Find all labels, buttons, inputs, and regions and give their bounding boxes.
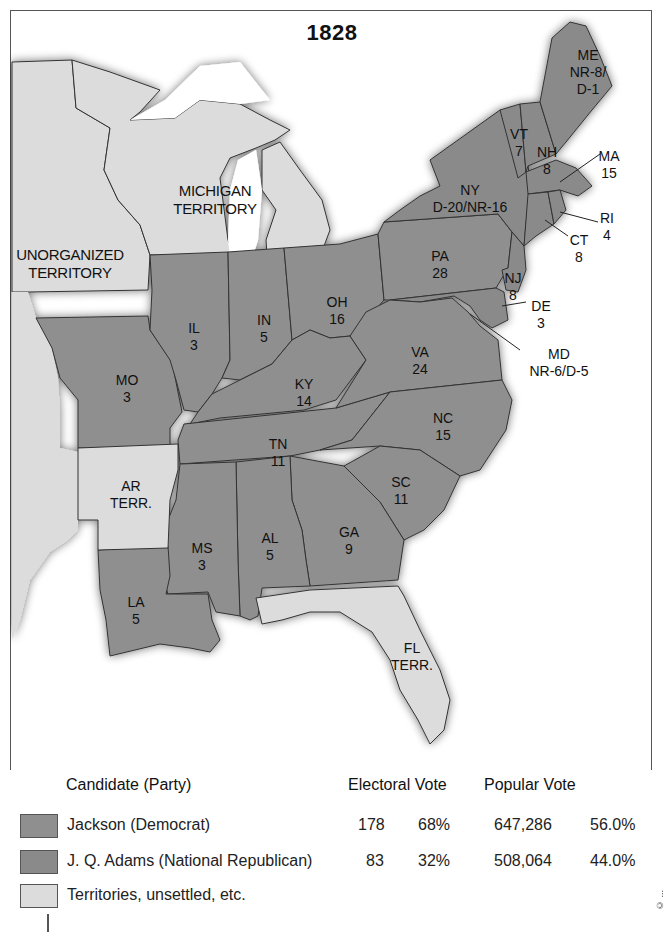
side-credit: © ... <box>655 790 664 910</box>
label-state-tn: TN11 <box>269 436 288 470</box>
corner-tick-line <box>47 914 49 932</box>
label-state-nh: NH8 <box>537 144 557 178</box>
label-state-nc: NC15 <box>433 410 453 444</box>
map-graphic <box>10 10 652 770</box>
label-state-ma: MA15 <box>599 148 620 182</box>
legend-header-electoral: Electoral Vote <box>348 776 447 794</box>
label-ar-territory: ARTERR. <box>110 478 152 512</box>
label-state-in: IN5 <box>257 312 271 346</box>
label-state-de: DE3 <box>531 298 550 332</box>
legend-label: J. Q. Adams (National Republican) <box>67 852 312 870</box>
label-state-mo: MO3 <box>116 372 139 406</box>
legend-row-territories: Territories, unsettled, etc. <box>20 882 650 908</box>
label-fl-territory: FLTERR. <box>391 640 433 674</box>
popular-pct: 56.0% <box>590 816 635 834</box>
legend-header-candidate: Candidate (Party) <box>66 776 191 794</box>
electoral-votes: 178 <box>358 816 385 834</box>
popular-votes: 647,286 <box>494 816 552 834</box>
label-state-me: MENR-8/D-1 <box>570 47 607 98</box>
map-title: 1828 <box>0 20 664 46</box>
label-state-ct: CT8 <box>570 232 589 266</box>
popular-pct: 44.0% <box>590 852 635 870</box>
label-state-ny: NYD-20/NR-16 <box>433 182 508 216</box>
legend: Candidate (Party) Electoral Vote Popular… <box>10 770 652 914</box>
legend-header-popular: Popular Vote <box>484 776 576 794</box>
label-michigan-territory: MICHIGANTERRITORY <box>173 182 256 218</box>
label-state-pa: PA28 <box>431 248 449 282</box>
swatch-jackson <box>20 814 58 838</box>
swatch-territories <box>20 884 58 908</box>
label-state-sc: SC11 <box>391 474 410 508</box>
label-state-md: MDNR-6/D-5 <box>529 346 588 380</box>
legend-row-adams: J. Q. Adams (National Republican) 83 32%… <box>20 848 650 874</box>
electoral-pct: 32% <box>418 852 450 870</box>
label-state-ky: KY14 <box>295 376 314 410</box>
legend-label: Jackson (Democrat) <box>67 816 210 834</box>
swatch-adams <box>20 850 58 874</box>
label-state-va: VA24 <box>411 344 429 378</box>
label-state-ga: GA9 <box>339 524 359 558</box>
label-state-al: AL5 <box>261 530 278 564</box>
legend-row-jackson: Jackson (Democrat) 178 68% 647,286 56.0% <box>20 812 650 838</box>
label-state-oh: OH16 <box>327 294 348 328</box>
electoral-votes: 83 <box>366 852 384 870</box>
label-state-la: LA5 <box>127 594 144 628</box>
label-state-nj: NJ8 <box>504 270 521 304</box>
legend-label: Territories, unsettled, etc. <box>67 886 246 904</box>
label-state-il: IL3 <box>188 320 200 354</box>
label-unorganized-territory: UNORGANIZEDTERRITORY <box>16 246 124 282</box>
label-state-ms: MS3 <box>192 540 213 574</box>
popular-votes: 508,064 <box>494 852 552 870</box>
label-state-ri: RI4 <box>600 210 614 244</box>
label-state-vt: VT7 <box>510 126 528 160</box>
electoral-pct: 68% <box>418 816 450 834</box>
